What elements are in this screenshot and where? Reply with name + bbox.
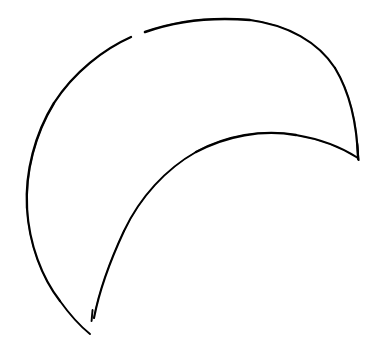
drawing-canvas: Hand-drawn crescent outline A sketched l… — [0, 0, 380, 352]
crescent-figure — [0, 0, 380, 352]
